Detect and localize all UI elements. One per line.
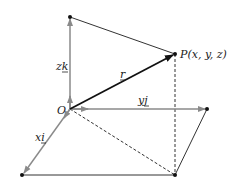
top-edge <box>70 17 175 54</box>
zk-label: zk <box>55 60 69 73</box>
r-label: r <box>120 68 126 81</box>
x-point <box>20 173 24 177</box>
yj-label: yj <box>137 94 148 107</box>
z-point <box>68 15 72 19</box>
xi-label: xi <box>35 131 45 144</box>
xy-point <box>173 173 177 177</box>
point-label: P(x, y, z) <box>179 48 227 61</box>
origin-label: O <box>57 104 66 117</box>
point-p <box>173 52 177 56</box>
vector-diagram: O P(x, y, z) r zk yj xi <box>0 0 233 192</box>
y-point <box>205 107 209 111</box>
xi-vector <box>24 109 70 173</box>
diagram-canvas: O P(x, y, z) r zk yj xi <box>0 0 233 192</box>
right-edge <box>175 109 207 175</box>
r-vector <box>70 55 173 109</box>
diagonal-dashed <box>70 109 175 175</box>
